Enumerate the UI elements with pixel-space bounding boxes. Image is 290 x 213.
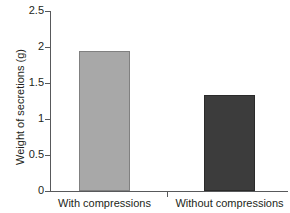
x-axis-label-2: Without compressions: [160, 197, 290, 210]
y-axis-tick-mark: [45, 119, 50, 120]
bar-2: [204, 95, 255, 191]
y-axis-tick-mark: [45, 11, 50, 12]
y-axis-tick-label: 0.5: [29, 149, 44, 160]
y-axis-tick-mark: [45, 155, 50, 156]
y-axis-line: [50, 11, 51, 192]
bar-1: [79, 51, 130, 191]
y-axis-tick-mark: [45, 83, 50, 84]
y-axis-tick-mark: [45, 47, 50, 48]
x-axis-line: [50, 191, 288, 192]
y-axis-tick-label: 2.5: [29, 5, 44, 16]
x-axis-label-1: With compressions: [35, 197, 175, 210]
y-axis-title: Weight of secretions (g): [14, 27, 26, 187]
y-axis-tick-label: 1: [38, 113, 44, 124]
y-axis-tick-label: 0: [38, 185, 44, 196]
y-axis-tick-mark: [45, 191, 50, 192]
y-axis-tick-label: 2: [38, 41, 44, 52]
bar-chart: Weight of secretions (g) 2.521.510.50 Wi…: [0, 0, 289, 213]
y-axis-tick-label: 1.5: [29, 77, 44, 88]
